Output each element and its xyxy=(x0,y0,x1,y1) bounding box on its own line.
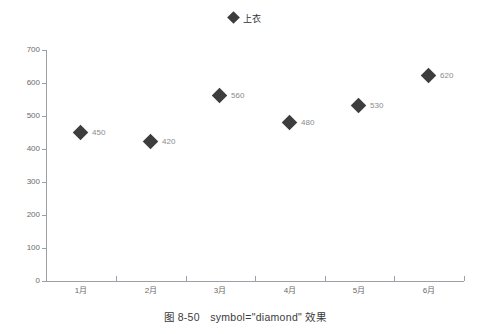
y-tick-label-600: 600 xyxy=(4,79,40,87)
diamond-icon xyxy=(212,88,228,104)
y-tick-label-0: 0 xyxy=(4,277,40,285)
x-tick-boundary-1 xyxy=(116,276,117,281)
data-point-label-3: 560 xyxy=(231,91,244,101)
y-tick-300 xyxy=(42,182,47,183)
y-tick-label-200: 200 xyxy=(4,211,40,219)
y-tick-600 xyxy=(42,83,47,84)
y-tick-100 xyxy=(42,248,47,249)
diamond-icon xyxy=(73,124,89,140)
x-tick-label-3: 3月 xyxy=(190,286,250,296)
y-tick-200 xyxy=(42,215,47,216)
x-tick-boundary-3 xyxy=(255,276,256,281)
plot-area: 0 100 200 300 400 500 600 700 1月 2月 3月 4… xyxy=(0,0,490,300)
y-tick-0 xyxy=(42,281,47,282)
diamond-icon xyxy=(351,98,367,114)
x-tick-boundary-4 xyxy=(325,276,326,281)
x-tick-boundary-2 xyxy=(186,276,187,281)
x-tick-label-1: 1月 xyxy=(51,286,111,296)
data-point-label-2: 420 xyxy=(162,137,175,147)
figure-container: 上衣 0 100 200 300 400 500 600 700 1月 xyxy=(0,0,490,334)
x-tick-label-5: 5月 xyxy=(329,286,389,296)
data-point-label-4: 480 xyxy=(301,118,314,128)
y-tick-label-700: 700 xyxy=(4,46,40,54)
x-tick-boundary-6 xyxy=(464,276,465,281)
diamond-icon xyxy=(143,134,159,150)
x-tick-boundary-5 xyxy=(394,276,395,281)
y-tick-label-400: 400 xyxy=(4,145,40,153)
y-tick-label-500: 500 xyxy=(4,112,40,120)
y-tick-700 xyxy=(42,50,47,51)
diamond-icon xyxy=(421,68,437,84)
x-tick-label-4: 4月 xyxy=(260,286,320,296)
x-axis-line xyxy=(46,281,464,282)
y-tick-label-100: 100 xyxy=(4,244,40,252)
data-point-label-6: 620 xyxy=(440,71,453,81)
diamond-icon xyxy=(282,114,298,130)
x-tick-boundary-0 xyxy=(46,276,47,281)
y-tick-label-300: 300 xyxy=(4,178,40,186)
y-tick-500 xyxy=(42,116,47,117)
y-tick-400 xyxy=(42,149,47,150)
x-tick-label-2: 2月 xyxy=(121,286,181,296)
data-point-label-1: 450 xyxy=(92,128,105,138)
data-point-label-5: 530 xyxy=(370,101,383,111)
x-tick-label-6: 6月 xyxy=(399,286,459,296)
y-axis-line xyxy=(46,50,47,281)
figure-caption: 图 8-50 symbol="diamond" 效果 xyxy=(0,309,490,324)
